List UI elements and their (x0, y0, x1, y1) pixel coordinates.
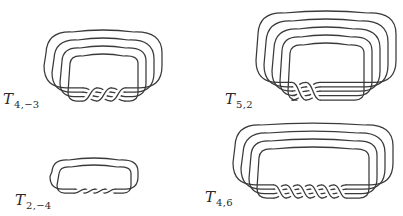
torus-link-t2-neg4-diagram (50, 158, 138, 193)
label-t2-neg4: T2,−4 (15, 193, 52, 211)
label-t5-2: T5,2 (225, 92, 253, 110)
label-t4-6: T4,6 (205, 190, 233, 208)
torus-link-t4-6-diagram (233, 123, 393, 198)
label-t4-neg3: T4,−3 (3, 92, 40, 110)
torus-link-figure: T4,−3 T5,2 T2,−4 T4,6 (0, 0, 403, 216)
knot-diagrams (0, 0, 403, 216)
torus-link-t5-2-diagram (256, 11, 396, 100)
torus-link-t4-neg3-diagram (44, 30, 162, 101)
